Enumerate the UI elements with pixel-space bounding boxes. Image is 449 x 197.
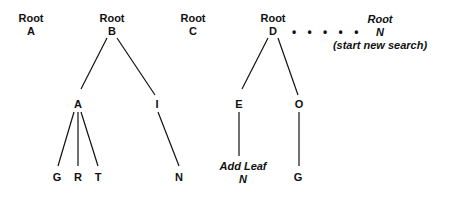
node-letter: N [333,26,427,39]
root-label: Root [18,12,43,25]
root-a-node: Root A [18,12,43,38]
node-letter: B [99,25,124,38]
leaf-t: T [95,171,102,184]
root-label: Root [260,12,285,25]
leaf-g-d: G [294,171,303,184]
node-i: I [155,98,158,111]
node-letter: N [219,173,266,186]
root-label: Root [180,12,205,25]
root-c-node: Root C [180,12,205,38]
root-label: Root [99,12,124,25]
node-letter: C [180,25,205,38]
leaf-n: N [175,171,183,184]
root-b-node: Root B [99,12,124,38]
add-leaf-node: Add Leaf N [219,160,266,186]
node-a: A [74,98,82,111]
root-label: Root [333,13,427,26]
search-note: (start new search) [333,39,427,52]
add-leaf-label: Add Leaf [219,160,266,173]
node-letter: A [18,25,43,38]
root-n-node: Root N (start new search) [333,13,427,52]
node-e: E [235,98,242,111]
node-letter: D [260,25,285,38]
leaf-g: G [53,171,62,184]
leaf-r: R [74,171,82,184]
node-o: O [295,98,304,111]
root-d-node: Root D [260,12,285,38]
